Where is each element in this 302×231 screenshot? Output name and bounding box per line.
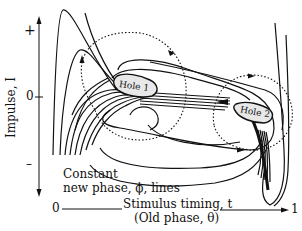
annotation-line2: new phase, ϕ, lines [63,182,180,195]
y-tick-minus: – [26,158,32,171]
x-end-label: 1 [291,203,299,216]
y-tick-plus: + [24,24,36,37]
y-axis [35,16,43,197]
y-axis-label: Impulse, I [4,77,18,138]
x-axis-label-line1: Stimulus timing, t [123,198,232,211]
y-tick-zero: 0 [26,90,34,103]
x-start-label: 0 [52,202,60,215]
x-axis-label-line2: (Old phase, θ) [134,212,219,225]
annotation-line1: Constant [63,168,118,181]
